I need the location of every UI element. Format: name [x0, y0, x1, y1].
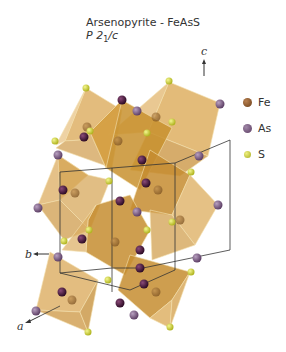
- a-axis-indicator: a: [17, 316, 40, 333]
- svg-text:c: c: [201, 45, 207, 58]
- crystal-structure: c b a: [0, 0, 286, 352]
- svg-text:b: b: [25, 248, 32, 261]
- svg-text:a: a: [17, 320, 24, 333]
- c-axis-indicator: c: [201, 45, 207, 76]
- b-axis-indicator: b: [25, 248, 49, 261]
